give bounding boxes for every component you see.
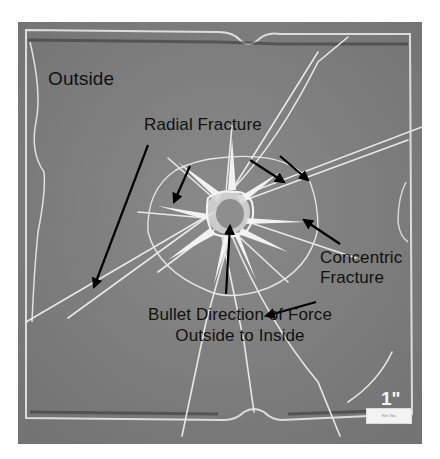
label-bullet-line1: Bullet Direction of Force [110, 305, 370, 324]
label-bullet-line2: Outside to Inside [110, 326, 370, 345]
label-radial-fracture: Radial Fracture [144, 115, 262, 134]
fracture-photo: Outside Radial Fracture Concentric Fract… [18, 22, 422, 444]
label-concentric-line2: Fracture [320, 268, 384, 287]
label-outside: Outside [48, 69, 114, 88]
scale-bar-label: 1" [381, 389, 401, 409]
scale-bar-ruler: Ref. No. [366, 408, 412, 424]
figure-caption-truncated [10, 451, 430, 459]
scale-bar-ruler-text: Ref. No. [367, 409, 411, 423]
label-concentric-line1: Concentric [320, 248, 402, 267]
